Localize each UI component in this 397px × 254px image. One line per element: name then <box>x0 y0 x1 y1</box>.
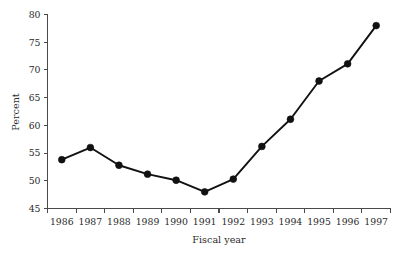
data-point-marker <box>258 143 265 150</box>
data-point-marker <box>173 177 180 184</box>
y-tick-label: 70 <box>29 64 41 75</box>
x-tick-label: 1991 <box>193 216 217 227</box>
data-point-marker <box>201 188 208 195</box>
x-axis-tick-labels: 1986198719881989199019911992199319941995… <box>50 216 388 227</box>
data-point-marker <box>344 60 351 67</box>
y-tick-label: 60 <box>29 120 41 131</box>
x-tick-label: 1988 <box>107 216 131 227</box>
data-point-marker <box>287 116 294 123</box>
x-tick-label: 1997 <box>364 216 388 227</box>
x-tick-label: 1987 <box>79 216 103 227</box>
y-tick-label: 65 <box>29 92 41 103</box>
chart-plot-area: 4550556065707580 19861987198819891990199… <box>0 0 397 254</box>
x-tick-label: 1995 <box>307 216 331 227</box>
y-tick-label: 55 <box>29 147 41 158</box>
x-tick-label: 1992 <box>221 216 245 227</box>
data-point-marker <box>116 162 123 169</box>
data-point-marker <box>144 171 151 178</box>
x-tick-label: 1986 <box>50 216 74 227</box>
x-tick-label: 1990 <box>164 216 188 227</box>
data-point-marker <box>230 176 237 183</box>
x-axis-title: Fiscal year <box>192 234 246 245</box>
y-tick-label: 50 <box>29 175 41 186</box>
y-tick-label: 80 <box>29 9 41 20</box>
data-point-markers <box>58 22 379 195</box>
data-point-marker <box>58 156 65 163</box>
y-tick-label: 45 <box>29 203 41 214</box>
x-tick-label: 1989 <box>136 216 160 227</box>
data-point-marker <box>87 144 94 151</box>
x-tick-label: 1994 <box>279 216 303 227</box>
data-point-marker <box>373 22 380 29</box>
data-series-line <box>62 26 376 192</box>
y-axis-title: Percent <box>10 93 21 131</box>
y-axis-tick-labels: 4550556065707580 <box>29 9 41 214</box>
axis-lines <box>48 15 391 209</box>
x-tick-label: 1993 <box>250 216 274 227</box>
data-point-marker <box>316 78 323 85</box>
x-tick-label: 1996 <box>336 216 360 227</box>
line-chart-figure: 4550556065707580 19861987198819891990199… <box>0 0 397 254</box>
y-tick-label: 75 <box>29 37 41 48</box>
